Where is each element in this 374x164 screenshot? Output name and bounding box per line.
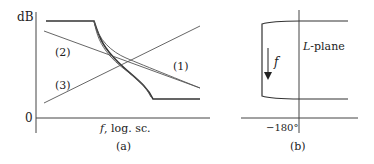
x-axis-label: f, log. sc. [99, 122, 151, 135]
curve-1-lower [94, 21, 151, 97]
minus-180-label: −180° [266, 122, 298, 133]
caption-b: (b) [290, 140, 306, 153]
arrow-head-icon [264, 72, 272, 80]
caption-a: (a) [116, 140, 131, 153]
plane-label: L-plane [302, 40, 345, 53]
panel-b: f L-plane −180° (b) [241, 10, 358, 153]
curve-1-bend [94, 21, 200, 88]
curve-2-label: (2) [55, 46, 71, 59]
curve-3-label: (3) [55, 79, 71, 92]
zero-label: 0 [25, 111, 33, 125]
curve-1-label: (1) [173, 60, 189, 73]
figure: dB 0 (2) (3) (1) f, log. sc. (a) f L-pla… [0, 0, 374, 164]
y-axis-label: dB [17, 10, 34, 24]
panel-a: dB 0 (2) (3) (1) f, log. sc. (a) [17, 10, 210, 153]
arrow-label: f [273, 55, 281, 69]
